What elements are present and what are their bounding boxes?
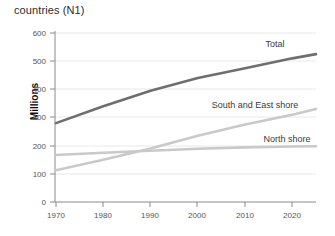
y-tick-label-100: 100 [33, 170, 47, 179]
x-tick-label-2010: 2010 [236, 211, 254, 220]
y-tick-label-300: 300 [33, 113, 47, 122]
y-tick-label-600: 600 [33, 29, 47, 38]
series-label-north-shore: North shore [263, 134, 310, 144]
y-tick-marks [50, 33, 55, 202]
x-tick-label-2020: 2020 [283, 211, 301, 220]
chart-container: countries (N1) Millions 600 500 [0, 0, 335, 236]
y-tick-label-0: 0 [42, 198, 47, 207]
chart-svg: 600 500 400 300 200 100 0 1970 1980 1990… [0, 0, 335, 236]
y-tick-label-200: 200 [33, 142, 47, 151]
x-tick-label-1970: 1970 [47, 211, 65, 220]
x-tick-marks [56, 202, 292, 207]
series-line-north-shore [56, 146, 316, 155]
y-tick-label-500: 500 [33, 57, 47, 66]
series-label-total: Total [265, 39, 284, 49]
x-tick-label-2000: 2000 [188, 211, 206, 220]
x-tick-label-1980: 1980 [94, 211, 112, 220]
series-label-south-and-east-shore: South and East shore [212, 100, 299, 110]
y-tick-label-400: 400 [33, 85, 47, 94]
x-tick-label-1990: 1990 [141, 211, 159, 220]
